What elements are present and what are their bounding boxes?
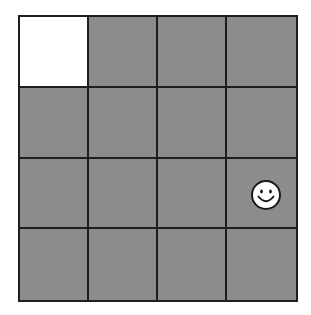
cell-r3-c1[interactable] bbox=[89, 229, 158, 300]
game-board bbox=[18, 15, 298, 302]
cell-r1-c1[interactable] bbox=[89, 88, 158, 159]
cell-r1-c3[interactable] bbox=[227, 88, 296, 159]
cell-r3-c3[interactable] bbox=[227, 229, 296, 300]
cell-r0-c3[interactable] bbox=[227, 17, 296, 88]
cell-r2-c3[interactable] bbox=[227, 159, 296, 230]
cell-r1-c2[interactable] bbox=[158, 88, 227, 159]
cell-r0-c0[interactable] bbox=[20, 17, 89, 88]
cell-r2-c2[interactable] bbox=[158, 159, 227, 230]
cell-r0-c1[interactable] bbox=[89, 17, 158, 88]
cell-r0-c2[interactable] bbox=[158, 17, 227, 88]
cell-r1-c0[interactable] bbox=[20, 88, 89, 159]
cell-r3-c2[interactable] bbox=[158, 229, 227, 300]
cell-r2-c0[interactable] bbox=[20, 159, 89, 230]
cell-r2-c1[interactable] bbox=[89, 159, 158, 230]
cell-r3-c0[interactable] bbox=[20, 229, 89, 300]
smiley-face-icon bbox=[250, 179, 282, 211]
